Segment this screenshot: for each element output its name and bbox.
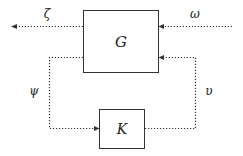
block-g-label: G [115,33,127,51]
signal-upsilon-label: υ [205,84,212,98]
arrowhead-omega-icon [159,24,165,29]
block-diagram: G K ζ ω ψ υ [0,0,243,156]
signal-zeta-label: ζ [44,7,52,21]
arrowhead-upsilon-icon [159,55,165,60]
block-k-label: K [116,121,129,137]
arrowhead-psi-icon [94,126,100,131]
signal-psi-label: ψ [29,84,39,98]
signal-omega-label: ω [190,7,200,21]
arrowhead-zeta-icon [11,24,17,29]
